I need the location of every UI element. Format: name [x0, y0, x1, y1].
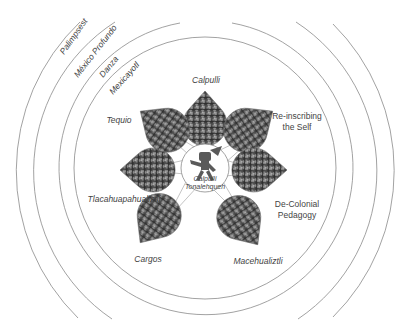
petal-label-calpulli: Calpulli: [192, 75, 221, 85]
diagram-canvas: Palimpsest México Profundo Danza Mexicay…: [0, 0, 411, 331]
petal-decolonial-photo: [232, 148, 287, 192]
petal-label-reinscribing-1: Re-inscribing: [272, 111, 322, 121]
ring-mexico-profundo-right: [296, 22, 377, 319]
petal-label-decolonial-1: De-Colonial: [275, 199, 320, 209]
ring-label-danza: Danza: [97, 54, 121, 79]
center-label-line2: Tonalehqueh: [185, 183, 225, 191]
petal-label-macehualiztli: Macehualiztli: [233, 256, 283, 266]
center-node: Calpulli Tonalehqueh: [181, 144, 229, 192]
petal-calpulli-photo: [183, 91, 227, 146]
center-label-line1: Calpulli: [194, 175, 217, 183]
petal-macehualiztli-photo: [208, 187, 276, 257]
petal-label-reinscribing-2: the Self: [283, 122, 312, 132]
petal-label-cargos: Cargos: [134, 254, 162, 264]
ring-label-palimpsest: Palimpsest: [57, 16, 89, 56]
petal-label-decolonial-2: Pedagogy: [278, 210, 317, 220]
petal-label-tequio: Tequio: [106, 115, 131, 125]
ring-palimpsest-left: [16, 22, 80, 318]
ring-labels: Palimpsest México Profundo Danza Mexicay…: [57, 16, 142, 97]
petal-label-tlacahuapahualiztli: Tlacahuapahualiztli: [88, 194, 162, 204]
ring-palimpsest-right: [333, 24, 394, 317]
petal-tlacahuapahualiztli-photo: [120, 148, 175, 192]
